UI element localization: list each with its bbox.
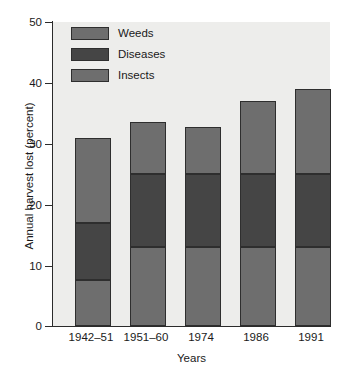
y-tick-0 [45,326,53,327]
legend-swatch-diseases [71,48,109,61]
bar-segment-insects [75,280,111,326]
x-axis-line [52,326,331,327]
y-axis-title: Annual harvest lost (percent) [23,61,35,291]
bar-segment-weeds [295,89,331,174]
bar-segment-diseases [185,174,221,247]
bar-segment-weeds [240,101,276,174]
bar-segment-weeds [130,122,166,174]
legend-label-insects: Insects [118,69,154,81]
legend: Weeds Diseases Insects [71,26,165,89]
bar-1986 [240,22,276,326]
bar-1974 [185,22,221,326]
legend-item-diseases: Diseases [71,47,165,61]
legend-item-insects: Insects [71,68,165,82]
y-tick-label-50: 50 [20,16,42,28]
x-axis-title: Years [53,352,330,364]
legend-swatch-insects [71,69,109,82]
bar-segment-insects [185,247,221,326]
legend-item-weeds: Weeds [71,26,165,40]
y-tick-40 [45,83,53,84]
bar-segment-weeds [185,127,221,174]
legend-label-diseases: Diseases [118,48,165,60]
y-tick-20 [45,205,53,206]
bar-1991 [295,22,331,326]
bar-segment-diseases [295,174,331,247]
bar-segment-diseases [240,174,276,247]
bar-segment-insects [130,247,166,326]
y-tick-10 [45,266,53,267]
y-tick-50 [45,22,53,23]
bar-segment-diseases [130,174,166,247]
x-tick-label-4: 1991 [273,331,345,344]
stacked-bar-chart: 50 40 30 20 10 0 1942–51 1951–60 1974 19… [0,0,345,374]
bar-segment-weeds [75,138,111,223]
bar-segment-diseases [75,223,111,281]
legend-label-weeds: Weeds [118,27,154,39]
bar-segment-insects [295,247,331,326]
bar-segment-insects [240,247,276,326]
y-tick-30 [45,144,53,145]
legend-swatch-weeds [71,27,109,40]
y-tick-label-0: 0 [20,320,42,332]
